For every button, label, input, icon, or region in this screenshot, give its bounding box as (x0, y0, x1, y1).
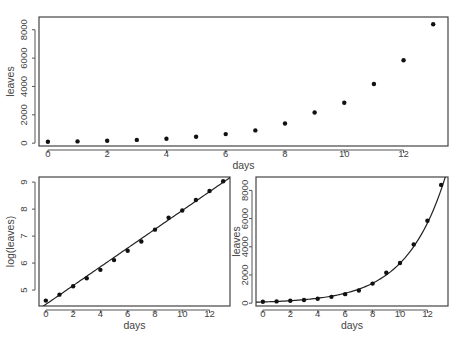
y-tick-label: 8000 (18, 19, 29, 40)
x-tick-label: 10 (339, 148, 350, 159)
y-tick-label: 6 (18, 260, 29, 265)
x-tick-label: 6 (223, 148, 228, 159)
x-tick-label: 4 (315, 308, 320, 319)
data-point (253, 128, 257, 132)
x-tick-label: 2 (105, 148, 110, 159)
data-point (75, 139, 79, 143)
data-point (425, 219, 429, 223)
data-point (288, 299, 292, 303)
data-point (329, 295, 333, 299)
x-tick-label: 0 (260, 308, 265, 319)
data-point (357, 288, 361, 292)
x-tick-label: 10 (395, 308, 406, 319)
data-point (384, 271, 388, 275)
data-point (302, 298, 306, 302)
data-point (312, 110, 316, 114)
data-point (139, 239, 143, 243)
x-tick-label: 12 (422, 308, 433, 319)
data-point (125, 248, 129, 252)
data-point (343, 292, 347, 296)
y-tick-label: 4000 (18, 76, 29, 97)
x-tick-label: 6 (125, 308, 130, 319)
data-point (112, 258, 116, 262)
x-tick-label: 8 (152, 308, 157, 319)
data-point (207, 189, 211, 193)
y-tick-label: 5 (18, 287, 29, 292)
plot-area-border (39, 17, 448, 146)
data-point (370, 281, 374, 285)
y-tick-label: 8000 (239, 180, 250, 201)
data-point (57, 292, 61, 296)
plot-area-border (256, 177, 448, 306)
data-point (166, 216, 170, 220)
data-point (439, 183, 443, 187)
data-point (194, 198, 198, 202)
panel-leaves-vs-days: 02468101202000400060008000daysleaves (4, 17, 448, 171)
x-tick-label: 8 (282, 148, 287, 159)
y-tick-label: 9 (18, 179, 29, 184)
x-axis-label: days (341, 319, 363, 331)
data-point (180, 208, 184, 212)
x-tick-label: 4 (98, 308, 103, 319)
x-tick-label: 8 (370, 308, 375, 319)
x-tick-label: 6 (342, 308, 347, 319)
data-point (105, 139, 109, 143)
data-point (431, 22, 435, 26)
x-tick-label: 12 (398, 148, 409, 159)
y-axis-label: leaves (4, 66, 16, 96)
figure: 02468101202000400060008000daysleaves 024… (0, 0, 461, 343)
y-tick-label: 8 (18, 206, 29, 211)
data-point (398, 261, 402, 265)
x-axis-label: days (123, 319, 145, 331)
data-point (372, 82, 376, 86)
data-point (44, 298, 48, 302)
data-point (164, 136, 168, 140)
exponential-fit-curve (256, 168, 448, 302)
data-point (261, 300, 265, 304)
y-tick-label: 7 (18, 233, 29, 238)
data-point (412, 242, 416, 246)
data-point (221, 179, 225, 183)
x-tick-label: 4 (164, 148, 169, 159)
data-point (194, 135, 198, 139)
y-tick-label: 2000 (239, 264, 250, 285)
regression-line (39, 178, 230, 309)
y-tick-label: 0 (239, 301, 250, 306)
plot-area-border (39, 177, 230, 306)
data-point (98, 268, 102, 272)
data-point (401, 58, 405, 62)
data-point (153, 227, 157, 231)
x-tick-label: 10 (177, 308, 188, 319)
data-point (71, 284, 75, 288)
data-point (274, 299, 278, 303)
x-tick-label: 0 (43, 308, 48, 319)
panel-log-leaves-vs-days: 02468101256789dayslog(leaves) (4, 177, 230, 331)
data-point (46, 140, 50, 144)
data-point (342, 101, 346, 105)
y-axis-label: log(leaves) (4, 216, 16, 267)
x-axis-label: days (232, 159, 254, 171)
data-point (224, 132, 228, 136)
data-point (283, 121, 287, 125)
data-point (316, 297, 320, 301)
y-tick-label: 6000 (18, 48, 29, 69)
x-tick-label: 0 (45, 148, 50, 159)
x-tick-label: 12 (204, 308, 215, 319)
x-tick-label: 2 (288, 308, 293, 319)
x-tick-label: 2 (70, 308, 75, 319)
y-tick-label: 6000 (239, 208, 250, 229)
panel-leaves-fit-vs-days: 02468101202000400060008000daysleaves (230, 168, 448, 331)
y-tick-label: 0 (18, 141, 29, 146)
y-tick-label: 2000 (18, 104, 29, 125)
y-axis-label: leaves (230, 226, 242, 256)
data-point (135, 138, 139, 142)
data-point (85, 276, 89, 280)
